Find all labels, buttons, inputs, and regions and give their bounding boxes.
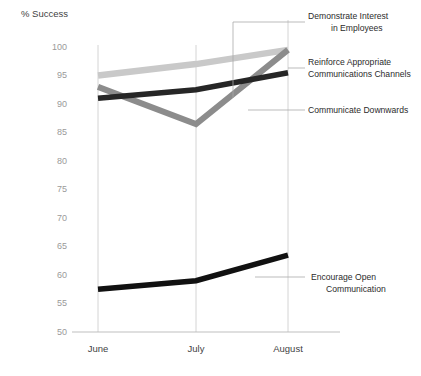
annotation-demonstrate-interest-line1: Demonstrate Interest [308, 11, 389, 21]
x-tick-june: June [88, 343, 109, 354]
y-tick-90: 90 [57, 99, 67, 109]
y-tick-95: 95 [57, 70, 67, 80]
y-tick-70: 70 [57, 213, 67, 223]
x-axis-tick-labels: June July August [88, 343, 303, 354]
annotation-communicate-downwards-line1: Communicate Downwards [308, 105, 408, 115]
x-tick-august: August [273, 343, 303, 354]
x-tick-july: July [188, 343, 205, 354]
annotation-reinforce-channels-line2: Communications Channels [308, 69, 411, 79]
annotation-communicate-downwards[interactable]: Communicate Downwards [308, 105, 408, 115]
y-axis-title: % Success [21, 8, 68, 19]
y-tick-75: 75 [57, 184, 67, 194]
y-tick-65: 65 [57, 241, 67, 251]
y-tick-60: 60 [57, 270, 67, 280]
series-communicate-downwards [98, 50, 288, 124]
chart-container: % Success 100 95 90 85 80 75 70 65 60 55… [0, 0, 421, 376]
y-tick-55: 55 [57, 298, 67, 308]
line-chart: % Success 100 95 90 85 80 75 70 65 60 55… [0, 0, 421, 376]
series-encourage-open-communication [98, 255, 288, 289]
annotation-leader-lines [233, 22, 305, 277]
y-axis-tick-labels: 100 95 90 85 80 75 70 65 60 55 50 [52, 42, 67, 337]
annotation-demonstrate-interest[interactable]: Demonstrate Interest in Employees [308, 11, 389, 33]
annotation-encourage-open-communication-line2: Communication [326, 284, 386, 294]
annotation-encourage-open-communication[interactable]: Encourage Open Communication [311, 272, 386, 294]
y-tick-85: 85 [57, 127, 67, 137]
annotation-demonstrate-interest-line2: in Employees [331, 23, 383, 33]
series-reinforce-channels [98, 73, 288, 99]
annotation-encourage-open-communication-line1: Encourage Open [311, 272, 376, 282]
y-tick-100: 100 [52, 42, 67, 52]
annotation-reinforce-channels[interactable]: Reinforce Appropriate Communications Cha… [308, 57, 411, 79]
y-tick-80: 80 [57, 156, 67, 166]
annotation-reinforce-channels-line1: Reinforce Appropriate [308, 57, 391, 67]
y-tick-50: 50 [57, 327, 67, 337]
